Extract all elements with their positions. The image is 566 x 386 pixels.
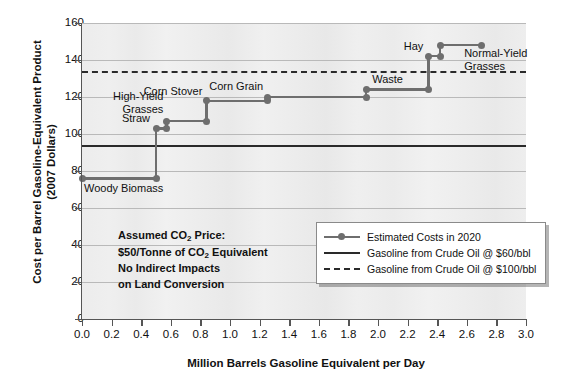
point-label-line: Woody Biomass <box>84 182 163 195</box>
x-tick <box>171 319 172 326</box>
y-tick <box>75 208 82 209</box>
x-tick <box>200 319 201 326</box>
x-tick <box>260 319 261 326</box>
step-segment <box>267 96 366 98</box>
x-tick <box>496 319 497 326</box>
y-tick-label: 160 <box>44 16 84 28</box>
x-tick <box>526 319 527 326</box>
legend-item-crude-60: Gasoline from Crude Oil @ $60/bbl <box>324 245 536 261</box>
y-tick-label: 120 <box>44 90 84 102</box>
x-tick <box>319 319 320 326</box>
annotation-line-4: on Land Conversion <box>118 277 268 293</box>
step-segment <box>206 100 267 102</box>
y-tick <box>75 97 82 98</box>
gridline <box>82 23 526 24</box>
y-tick <box>75 171 82 172</box>
data-point-marker <box>437 42 444 49</box>
point-label-line: Normal-Yield <box>464 47 527 60</box>
y-tick <box>75 319 82 320</box>
x-tick <box>141 319 142 326</box>
x-tick <box>408 319 409 326</box>
annotation-line-2: $50/Tonne of CO2 Equivalent <box>118 245 268 262</box>
data-point-marker <box>363 86 370 93</box>
x-tick <box>437 319 438 326</box>
x-tick <box>112 319 113 326</box>
reference-line <box>82 145 526 147</box>
x-tick <box>378 319 379 326</box>
y-tick-label: 100 <box>44 127 84 139</box>
gridline <box>82 171 526 172</box>
data-point-marker <box>163 118 170 125</box>
legend-label-crude-60: Gasoline from Crude Oil @ $60/bbl <box>367 247 531 259</box>
chart-legend: Estimated Costs in 2020 Gasoline from Cr… <box>316 222 546 284</box>
y-tick-label: 40 <box>44 238 84 250</box>
point-label-woody-biomass: Woody Biomass <box>84 182 163 195</box>
legend-key-line-with-marker-icon <box>324 231 360 243</box>
y-tick-label: 80 <box>44 164 84 176</box>
point-label-line: Corn Stover <box>144 85 203 98</box>
chart-root: Cost per Barrel Gasoline-Equivalent Prod… <box>0 0 566 386</box>
legend-item-crude-100: Gasoline from Crude Oil @ $100/bbl <box>324 261 536 277</box>
data-point-marker <box>425 53 432 60</box>
x-axis-title: Million Barrels Gasoline Equivalent per … <box>56 357 556 369</box>
y-tick <box>75 134 82 135</box>
legend-label-estimated-costs: Estimated Costs in 2020 <box>367 231 481 243</box>
y-tick-label: 140 <box>44 53 84 65</box>
x-tick-label: 3.0 <box>506 328 546 340</box>
reference-line <box>82 71 526 73</box>
y-tick <box>75 60 82 61</box>
point-label-normal-yield-grasses: Normal-YieldGrasses <box>464 47 527 72</box>
y-tick-label: 0 <box>44 312 84 324</box>
x-tick <box>82 319 83 326</box>
y-tick-label: 60 <box>44 201 84 213</box>
point-label-hay: Hay <box>404 40 424 53</box>
y-tick <box>75 23 82 24</box>
legend-key-dashed-line-icon <box>324 263 360 275</box>
step-segment <box>166 120 206 122</box>
data-point-marker <box>203 97 210 104</box>
x-tick <box>230 319 231 326</box>
step-segment <box>82 177 156 179</box>
x-tick <box>467 319 468 326</box>
step-segment <box>440 44 481 46</box>
assumption-annotation: Assumed CO2 Price: $50/Tonne of CO2 Equi… <box>118 228 268 292</box>
step-segment <box>366 88 428 90</box>
point-label-waste: Waste <box>372 73 403 86</box>
step-riser <box>427 56 429 89</box>
point-label-line: Grasses <box>464 60 527 73</box>
x-tick <box>289 319 290 326</box>
point-label-line: Waste <box>372 73 403 86</box>
y-tick <box>75 282 82 283</box>
y-tick <box>75 245 82 246</box>
x-tick <box>348 319 349 326</box>
gridline <box>82 134 526 135</box>
gridline <box>82 208 526 209</box>
point-label-corn-stover: Corn Stover <box>144 85 203 98</box>
y-axis-title-line1: Cost per Barrel Gasoline-Equivalent Prod… <box>30 22 44 302</box>
annotation-line-1: Assumed CO2 Price: <box>118 228 268 245</box>
gridline <box>82 60 526 61</box>
data-point-marker <box>264 94 271 101</box>
legend-label-crude-100: Gasoline from Crude Oil @ $100/bbl <box>367 263 536 275</box>
point-label-line: Corn Grain <box>209 80 263 93</box>
step-riser <box>155 128 157 178</box>
annotation-line-3: No Indirect Impacts <box>118 261 268 277</box>
x-axis-ticks: 0.00.20.40.60.81.01.21.41.61.82.02.22.42… <box>82 319 526 349</box>
point-label-corn-grain: Corn Grain <box>209 80 263 93</box>
data-point-marker <box>153 125 160 132</box>
legend-item-estimated-costs: Estimated Costs in 2020 <box>324 229 536 245</box>
point-label-line: Hay <box>404 40 424 53</box>
point-label-line: Grasses <box>113 103 163 116</box>
y-tick-label: 20 <box>44 275 84 287</box>
legend-key-solid-line-icon <box>324 247 360 259</box>
